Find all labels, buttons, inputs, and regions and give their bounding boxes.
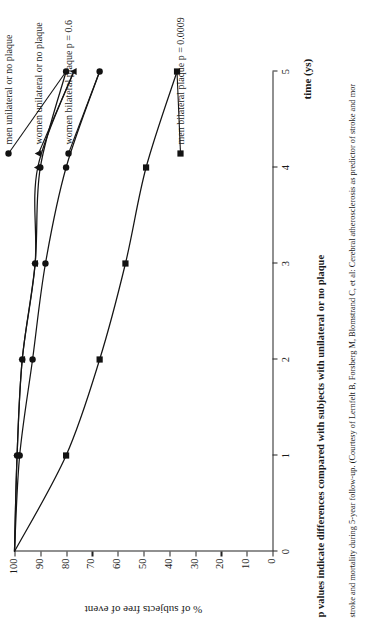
series-end-label: men bilateral plaque p = 0.0009 bbox=[175, 17, 185, 144]
chart-plot-area: 0102030405060708090100 012345 % of subje… bbox=[14, 71, 272, 551]
series-end-label: women unilateral or no plaque bbox=[33, 22, 43, 144]
y-tick-mark bbox=[143, 551, 144, 556]
x-tick-label: 5 bbox=[280, 68, 291, 73]
x-tick-mark bbox=[272, 454, 277, 455]
y-tick-mark bbox=[40, 551, 41, 556]
caption-source-line: stroke and mortality during 5-year follo… bbox=[347, 5, 357, 617]
data-point-marker bbox=[62, 164, 68, 170]
data-point-marker bbox=[65, 150, 71, 156]
y-axis-title: % of subjects free of event bbox=[84, 603, 202, 615]
y-tick-label: 20 bbox=[215, 558, 226, 569]
x-tick-mark bbox=[272, 550, 277, 551]
data-point-marker bbox=[177, 150, 183, 156]
x-tick-mark bbox=[272, 166, 277, 167]
y-tick-mark bbox=[14, 551, 15, 556]
y-tick-label: 70 bbox=[86, 558, 97, 569]
y-tick-mark bbox=[91, 551, 92, 556]
x-tick-label: 3 bbox=[280, 260, 291, 265]
caption-bold-line: p values indicate differences compared w… bbox=[314, 5, 326, 617]
data-point-marker bbox=[42, 260, 48, 266]
x-axis-title: time (ys) bbox=[300, 58, 312, 99]
data-point-marker bbox=[142, 164, 148, 170]
x-tick-label: 4 bbox=[280, 164, 291, 169]
y-tick-label: 80 bbox=[60, 558, 71, 569]
rotated-figure-stage: 0102030405060708090100 012345 % of subje… bbox=[0, 0, 379, 623]
y-tick-label: 50 bbox=[138, 558, 149, 569]
y-tick-label: 90 bbox=[35, 558, 46, 569]
y-tick-label: 60 bbox=[112, 558, 123, 569]
x-tick-mark bbox=[272, 358, 277, 359]
y-tick-label: 0 bbox=[267, 558, 278, 563]
y-tick-mark bbox=[272, 551, 273, 556]
x-tick-mark bbox=[272, 70, 277, 71]
chart-curves bbox=[14, 71, 272, 551]
series-curve bbox=[14, 71, 99, 551]
data-point-marker bbox=[63, 452, 69, 458]
y-tick-mark bbox=[220, 551, 221, 556]
y-tick-mark bbox=[169, 551, 170, 556]
figure-page: 0102030405060708090100 012345 % of subje… bbox=[0, 0, 379, 623]
y-tick-mark bbox=[117, 551, 118, 556]
series-end-label: women bilateral plaque p = 0.6 bbox=[63, 20, 73, 145]
y-tick-label: 40 bbox=[164, 558, 175, 569]
x-tick-label: 0 bbox=[280, 548, 291, 553]
data-point-marker bbox=[96, 356, 102, 362]
y-tick-mark bbox=[246, 551, 247, 556]
x-tick-label: 2 bbox=[280, 356, 291, 361]
series-end-label: men unilateral or no plaque bbox=[3, 34, 13, 144]
y-tick-mark bbox=[66, 551, 67, 556]
data-point-marker bbox=[122, 260, 128, 266]
data-point-marker bbox=[29, 356, 35, 362]
y-tick-label: 100 bbox=[9, 558, 20, 574]
caption-source-block: stroke and mortality during 5-year follo… bbox=[347, 5, 357, 617]
x-tick-mark bbox=[272, 262, 277, 263]
x-tick-label: 1 bbox=[280, 452, 291, 457]
y-tick-mark bbox=[195, 551, 196, 556]
y-tick-label: 30 bbox=[189, 558, 200, 569]
caption-block: p values indicate differences compared w… bbox=[314, 5, 326, 617]
y-tick-label: 10 bbox=[241, 558, 252, 569]
